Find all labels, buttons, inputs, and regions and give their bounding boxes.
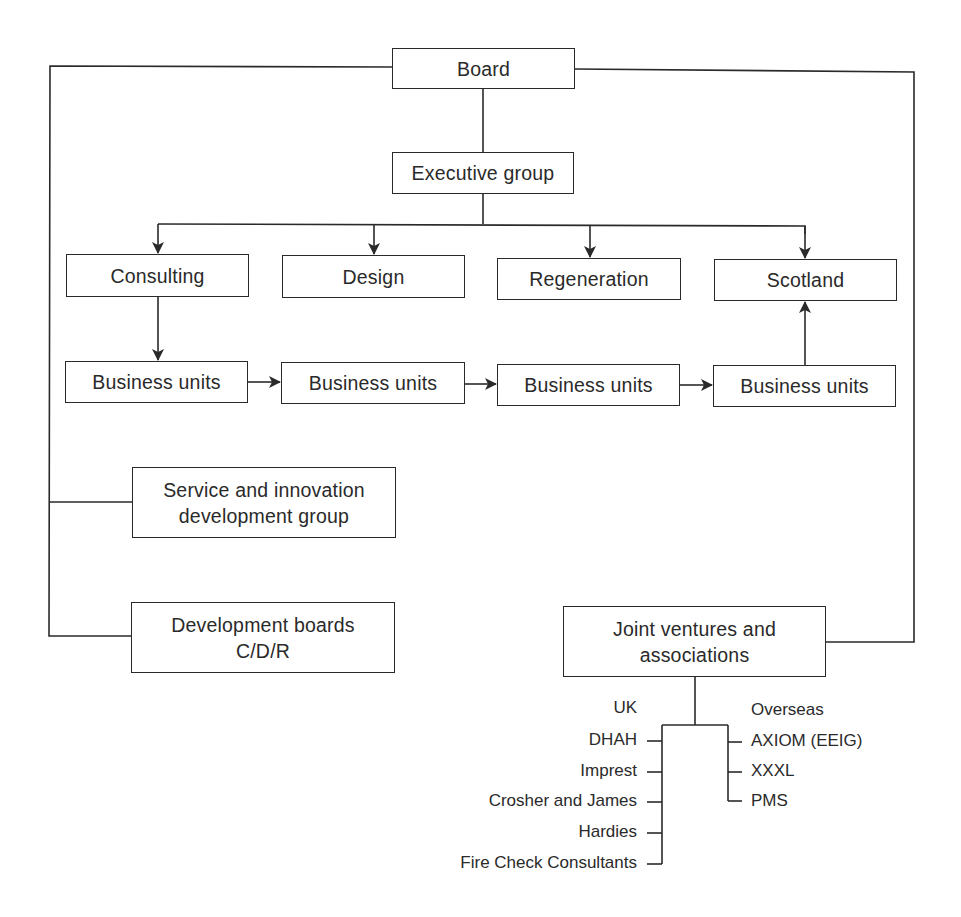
uk-item-imprest: Imprest	[580, 761, 637, 781]
development-boards-node: Development boards C/D/R	[131, 602, 395, 673]
service-innovation-label-line1: Service and innovation	[163, 477, 365, 503]
overseas-heading: Overseas	[751, 700, 824, 720]
uk-heading: UK	[613, 698, 637, 718]
business-units-label: Business units	[740, 373, 869, 399]
joint-ventures-label-line1: Joint ventures and	[613, 616, 776, 642]
connector-lines	[0, 0, 961, 917]
overseas-item-pms: PMS	[751, 791, 788, 811]
executive-group-label: Executive group	[412, 160, 555, 186]
service-innovation-label-line2: development group	[179, 503, 349, 529]
business-units-label: Business units	[92, 369, 221, 395]
regeneration-label: Regeneration	[529, 266, 649, 292]
joint-ventures-node: Joint ventures and associations	[563, 606, 826, 677]
uk-item-fire-check-consultants: Fire Check Consultants	[460, 853, 637, 873]
business-units-label: Business units	[309, 370, 438, 396]
scotland-node: Scotland	[714, 259, 897, 301]
service-innovation-node: Service and innovation development group	[132, 467, 396, 538]
business-units-node-3: Business units	[497, 364, 680, 406]
board-label: Board	[457, 56, 510, 82]
consulting-label: Consulting	[110, 263, 204, 289]
development-boards-label-line1: Development boards	[171, 612, 355, 638]
board-left-connector	[49, 66, 392, 636]
joint-ventures-label-line2: associations	[640, 642, 750, 668]
uk-item-dhah: DHAH	[589, 730, 637, 750]
business-units-node-2: Business units	[281, 362, 465, 404]
uk-item-crosher-and-james: Crosher and James	[489, 791, 637, 811]
overseas-item-axiom: AXIOM (EEIG)	[751, 731, 862, 751]
uk-item-hardies: Hardies	[578, 822, 637, 842]
business-units-node-1: Business units	[65, 361, 248, 403]
overseas-item-xxxl: XXXL	[751, 761, 794, 781]
regeneration-node: Regeneration	[497, 258, 681, 300]
consulting-node: Consulting	[66, 254, 249, 297]
scotland-label: Scotland	[767, 267, 845, 293]
business-units-label: Business units	[524, 372, 653, 398]
development-boards-label-line2: C/D/R	[236, 638, 290, 664]
board-node: Board	[392, 48, 575, 89]
board-right-connector	[575, 69, 914, 642]
business-units-node-4: Business units	[713, 365, 896, 407]
executive-group-node: Executive group	[392, 152, 574, 194]
design-label: Design	[343, 264, 405, 290]
design-node: Design	[282, 255, 465, 298]
